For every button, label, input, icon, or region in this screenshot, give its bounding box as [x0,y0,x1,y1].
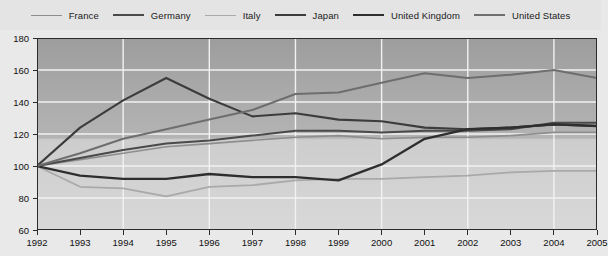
x-tick-label-2005: 2005 [586,237,607,248]
x-tick-label-1997: 1997 [242,237,263,248]
x-tick-label-1992: 1992 [26,237,47,248]
x-tick-mark-1996 [209,230,210,235]
x-tick-mark-1997 [252,230,253,235]
x-tick-label-1996: 1996 [199,237,220,248]
x-tick-label-1999: 1999 [328,237,349,248]
x-tick-mark-1993 [80,230,81,235]
x-tick-label-2001: 2001 [414,237,435,248]
x-tick-label-2003: 2003 [500,237,521,248]
x-tick-mark-2000 [381,230,382,235]
x-tick-mark-1994 [123,230,124,235]
x-tick-label-1993: 1993 [69,237,90,248]
x-tick-mark-1998 [295,230,296,235]
x-tick-mark-2002 [467,230,468,235]
x-tick-mark-2005 [597,230,598,235]
x-tick-label-2000: 2000 [371,237,392,248]
x-tick-label-1995: 1995 [156,237,177,248]
x-tick-label-1994: 1994 [113,237,134,248]
x-tick-mark-1992 [37,230,38,235]
x-tick-mark-2001 [424,230,425,235]
x-tick-label-1998: 1998 [285,237,306,248]
x-tick-mark-1995 [166,230,167,235]
x-tick-label-2002: 2002 [457,237,478,248]
x-tick-mark-2003 [510,230,511,235]
x-tick-label-2004: 2004 [543,237,564,248]
x-tick-mark-1999 [338,230,339,235]
x-tick-mark-2004 [553,230,554,235]
